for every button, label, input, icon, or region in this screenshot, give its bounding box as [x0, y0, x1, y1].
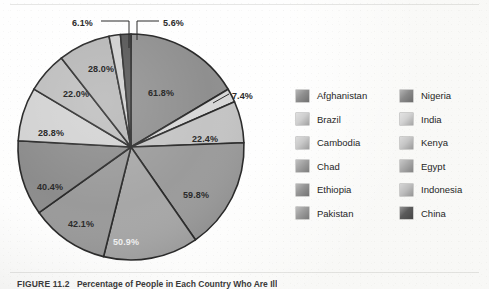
legend-item[interactable]: Pakistan: [296, 202, 367, 226]
legend-column-1: AfghanistanBrazilCambodiaChadEthiopiaPak…: [296, 84, 367, 225]
legend-item[interactable]: Nigeria: [400, 84, 462, 108]
legend-item[interactable]: China: [400, 202, 462, 226]
legend-item-label: India: [421, 114, 442, 125]
legend-color-swatch: [400, 207, 413, 219]
legend-item[interactable]: Cambodia: [296, 131, 367, 155]
legend-color-swatch: [400, 90, 413, 102]
legend-item[interactable]: Chad: [296, 155, 367, 179]
legend-item-label: Ethiopia: [317, 184, 351, 195]
legend-column-2: NigeriaIndiaKenyaEgyptIndonesiaChina: [400, 84, 462, 225]
legend-color-swatch: [296, 207, 309, 219]
legend-item[interactable]: Ethiopia: [296, 178, 367, 202]
legend-item-label: Cambodia: [317, 137, 360, 148]
legend-color-swatch: [400, 160, 413, 172]
legend-item[interactable]: Kenya: [400, 131, 462, 155]
legend-color-swatch: [296, 90, 309, 102]
legend-item[interactable]: Egypt: [400, 155, 462, 179]
figure-caption-text: Percentage of People in Each Country Who…: [77, 279, 277, 289]
legend-item-label: Pakistan: [317, 208, 353, 219]
pie-slice-value-label: 7.4%: [232, 91, 253, 101]
pie-slice-value-label: 22.0%: [63, 89, 89, 99]
figure-caption-number: FIGURE 11.2: [17, 279, 70, 289]
legend-item-label: Afghanistan: [317, 90, 367, 101]
legend-item[interactable]: Afghanistan: [296, 84, 367, 108]
legend-item-label: Chad: [317, 161, 340, 172]
legend-item-label: Kenya: [421, 137, 448, 148]
figure-caption: FIGURE 11.2 Percentage of People in Each…: [17, 279, 277, 289]
pie-slice-value-label: 40.4%: [37, 182, 63, 192]
legend-item-label: Brazil: [317, 114, 341, 125]
pie-shading-overlay: [18, 34, 244, 260]
pie-slice-value-label: 50.9%: [113, 237, 139, 247]
legend-color-swatch: [296, 137, 309, 149]
legend-color-swatch: [296, 113, 309, 125]
legend-item-label: Egypt: [421, 161, 445, 172]
pie-slice-value-label: 5.6%: [163, 18, 184, 28]
legend-item[interactable]: Indonesia: [400, 178, 462, 202]
legend-item-label: China: [421, 208, 446, 219]
legend-color-swatch: [400, 184, 413, 196]
legend-color-swatch: [296, 160, 309, 172]
legend-item[interactable]: India: [400, 108, 462, 132]
pie-slice-value-label: 28.8%: [38, 128, 64, 138]
pie-slice-value-label: 59.8%: [183, 190, 209, 200]
legend-color-swatch: [400, 137, 413, 149]
pie-slice-value-label: 42.1%: [68, 219, 94, 229]
pie-slice-value-label: 61.8%: [148, 88, 174, 98]
legend-color-swatch: [400, 113, 413, 125]
pie-slice-value-label: 28.0%: [88, 64, 114, 74]
legend-item-label: Nigeria: [421, 90, 451, 101]
legend-item-label: Indonesia: [421, 184, 462, 195]
legend-item[interactable]: Brazil: [296, 108, 367, 132]
legend-color-swatch: [296, 184, 309, 196]
pie-slice-value-label: 6.1%: [72, 18, 93, 28]
pie-slice-value-label: 22.4%: [192, 134, 218, 144]
